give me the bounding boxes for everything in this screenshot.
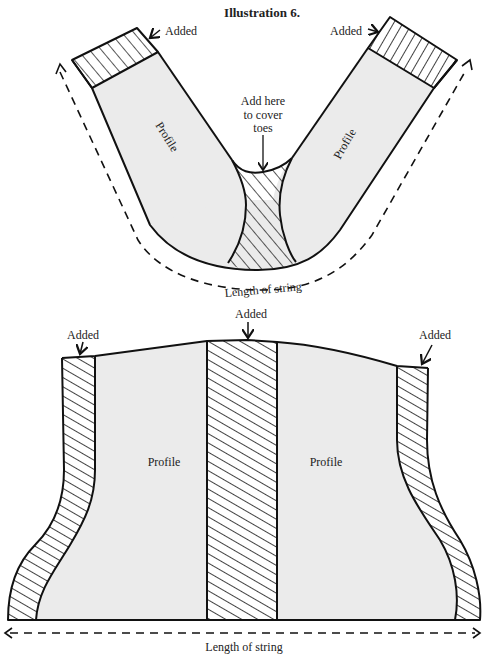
top-added-right-label: Added <box>330 24 362 38</box>
left-added-arrow-icon <box>150 30 160 38</box>
top-right-arrow-icon <box>462 60 472 70</box>
bottom-right-added-arrow-icon <box>422 345 432 364</box>
toes-label-line2: to cover <box>244 108 283 122</box>
bottom-added-right-label: Added <box>419 328 451 342</box>
bottom-center-added-hatch <box>207 340 277 620</box>
bottom-profile-right-label: Profile <box>310 455 343 469</box>
bottom-profile-left-label: Profile <box>148 455 181 469</box>
toes-label-line1: Add here <box>241 94 285 108</box>
illustration-title: Illustration 6. <box>224 5 300 20</box>
toes-label-line3: toes <box>253 121 273 135</box>
bottom-left-added-arrow-icon <box>80 342 83 354</box>
bottom-length-label: Length of string <box>205 640 282 654</box>
top-added-left-label: Added <box>165 24 197 38</box>
bottom-added-center-label: Added <box>235 307 267 321</box>
illustration-canvas: Illustration 6. Added <box>0 0 485 660</box>
top-figure: Added Added Add here to cover toes Profi… <box>56 17 472 300</box>
bottom-figure: Added Added Added Profile Profile Length… <box>5 307 480 654</box>
bottom-added-left-label: Added <box>67 328 99 342</box>
top-length-label: Length of string <box>224 279 302 300</box>
right-added-arrow-icon <box>368 29 378 32</box>
